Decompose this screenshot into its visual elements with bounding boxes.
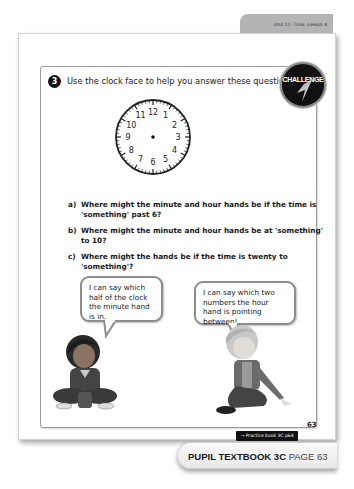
clock-number: 5 — [163, 155, 168, 164]
clock-number: 9 — [125, 133, 130, 142]
clock-number: 12 — [148, 108, 158, 117]
page-number: 63 — [307, 421, 317, 429]
clock-number: 10 — [126, 121, 136, 130]
question-prompt: Use the clock face to help you answer th… — [67, 75, 296, 88]
clock-number: 1 — [163, 111, 168, 120]
clock-number: 4 — [172, 146, 177, 155]
question-number-badge: 3 — [48, 75, 61, 88]
challenge-badge-icon: CHALLENGE — [280, 62, 326, 108]
clock-number: 11 — [135, 111, 145, 120]
book-title: PUPIL TEXTBOOK 3C — [188, 451, 286, 462]
speech-bubble-right: I can say which two numbers the hour han… — [194, 281, 296, 325]
item-text: Where might the minute and hour hands be… — [81, 200, 316, 219]
item-label: b) — [68, 226, 77, 236]
child-sitting-left-illustration — [50, 330, 120, 415]
clock-number: 6 — [150, 158, 155, 167]
question-items: a) Where might the minute and hour hands… — [68, 200, 326, 278]
clock-number: 7 — [138, 155, 143, 164]
item-text: Where might the minute and hour hands be… — [81, 226, 323, 245]
child-sitting-right-illustration — [212, 320, 307, 420]
book-page-label: PAGE 63 — [289, 451, 328, 462]
unit-lesson-tab: Unit 11: Time, Lesson 4 — [240, 14, 333, 33]
item-text: Where might the hands be if the time is … — [81, 252, 288, 271]
clock-number: 8 — [129, 146, 134, 155]
challenge-badge-label: CHALLENGE — [282, 76, 324, 83]
question-item-a: a) Where might the minute and hour hands… — [68, 200, 326, 220]
question-item-b: b) Where might the minute and hour hands… — [68, 226, 326, 246]
clock-number: 2 — [172, 121, 177, 130]
pupil-textbook-footer: PUPIL TEXTBOOK 3C PAGE 63 — [177, 442, 337, 469]
item-label: c) — [68, 252, 76, 262]
speech-bubble-left: I can say which half of the clock the mi… — [80, 276, 163, 322]
practice-book-reference[interactable]: → Practice book 3C p64 — [236, 431, 298, 441]
clock-number: 3 — [175, 133, 180, 142]
clock-face-icon: 121234567891011 — [113, 97, 193, 177]
item-label: a) — [68, 200, 76, 210]
question-item-c: c) Where might the hands be if the time … — [68, 252, 326, 272]
